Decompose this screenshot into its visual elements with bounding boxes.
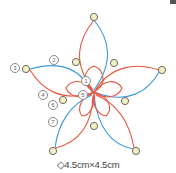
step-label-6: 6 bbox=[48, 100, 58, 110]
picot-ring-inner-right bbox=[121, 97, 128, 104]
corner-mark bbox=[170, 0, 176, 4]
flower-tatting-diagram bbox=[0, 0, 176, 173]
picot-ring-inner-top-left bbox=[72, 58, 79, 65]
picot-ring-top bbox=[90, 13, 97, 20]
step-label-1: 1 bbox=[81, 76, 91, 86]
picot-ring-left bbox=[22, 65, 29, 72]
picot-ring-bottom-right bbox=[132, 147, 139, 154]
picot-ring-inner-bottom bbox=[90, 122, 97, 129]
step-label-4: 4 bbox=[38, 90, 48, 100]
picot-ring-inner-top-right bbox=[110, 59, 117, 66]
step-label-3: 3 bbox=[10, 63, 20, 73]
step-label-5: 5 bbox=[78, 90, 88, 100]
step-label-2: 2 bbox=[49, 55, 59, 65]
picot-ring-right bbox=[158, 66, 165, 73]
size-caption: ◇4.5cm×4.5cm bbox=[0, 159, 176, 170]
petal-right-blue bbox=[96, 72, 159, 97]
picot-ring-bottom-left bbox=[49, 147, 56, 154]
step-label-7: 7 bbox=[48, 117, 58, 127]
picot-ring-inner-left bbox=[59, 96, 66, 103]
petal-top-blue bbox=[94, 20, 108, 90]
